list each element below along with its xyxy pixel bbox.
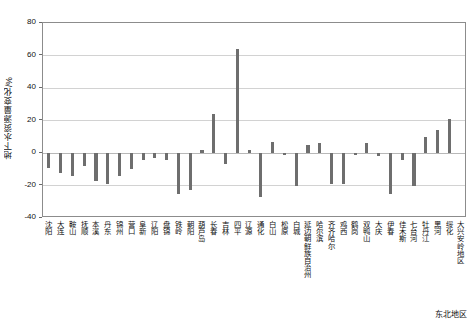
x-axis-title: 东北地区 [435,308,467,319]
x-tick-label: 铁岭 [174,220,182,234]
x-tick-label: 大兴安岭地区 [456,220,464,263]
x-tick-label: 佳木斯 [397,220,405,242]
x-tick-label: 阜新 [138,220,146,234]
x-tick-label: 长春 [209,220,217,234]
gridline-60 [43,55,465,56]
bar [153,153,156,158]
bar [118,153,121,176]
x-tick-label: 七台河 [409,220,417,242]
x-tick-label: 辽源 [244,220,252,234]
x-tick-label: 黑河 [433,220,441,234]
x-tick-label: 辽阳 [150,220,158,234]
bar [330,153,333,184]
x-tick-label: 本溪 [91,220,99,234]
plot-area [42,22,466,217]
x-tick-label: 锦州 [115,220,123,234]
bar [389,153,392,194]
bar [424,137,427,153]
x-tick-label: 延边朝鲜族自治州 [303,220,311,278]
bar [200,150,203,153]
x-tick-label: 通化 [256,220,264,234]
bar [212,114,215,153]
y-tick-label--20: -20 [6,181,36,189]
x-axis-tick-labels: 沈阳大连鞍山抚顺本溪丹东锦州营口阜新辽阳盘锦铁岭朝阳葫芦岛长春吉林四平辽源通化白… [42,220,466,306]
bar [306,145,309,153]
bar [271,142,274,153]
bar [283,153,286,155]
bar [47,153,50,168]
bar [377,153,380,156]
y-tick-label-80: 80 [6,18,36,26]
y-tick-label-40: 40 [6,83,36,91]
x-tick-label: 伊春 [386,220,394,234]
x-tick-label: 大连 [56,220,64,234]
bar [295,153,298,186]
x-tick-label: 鹤岗 [350,220,358,234]
x-tick-label: 沈阳 [44,220,52,234]
x-tick-label: 大庆 [374,220,382,234]
bar [401,153,404,160]
x-tick-label: 绥化 [445,220,453,234]
bar [354,153,357,155]
x-tick-label: 营口 [127,220,135,234]
bar [224,153,227,164]
bar [94,153,97,181]
gridline-40 [43,88,465,89]
x-tick-label: 吉林 [221,220,229,234]
x-tick-label: 鸡西 [339,220,347,234]
bar [412,153,415,186]
bar [365,143,368,153]
gridline-20 [43,120,465,121]
x-tick-label: 松原 [280,220,288,234]
x-tick-label: 双鸭山 [362,220,370,242]
x-tick-label: 盘锦 [162,220,170,234]
bar [248,150,251,153]
bar [189,153,192,190]
bar [106,153,109,184]
x-tick-label: 白山 [268,220,276,234]
y-tick-label-60: 60 [6,51,36,59]
bar [236,49,239,153]
bar [448,119,451,153]
x-tick-label: 丹东 [103,220,111,234]
x-tick-label: 葫芦岛 [197,220,205,242]
x-tick-label: 鞍山 [68,220,76,234]
bar [436,130,439,153]
y-tick-label--40: -40 [6,213,36,221]
x-tick-label: 齐齐哈尔 [327,220,335,249]
gridline--20 [43,185,465,186]
x-tick-label: 哈尔滨 [315,220,323,242]
y-tick-label-20: 20 [6,116,36,124]
bar [177,153,180,194]
x-tick-label: 牡丹江 [421,220,429,242]
x-tick-label: 四平 [233,220,241,234]
y-tick-label-0: 0 [6,148,36,156]
bar [165,153,168,160]
bar [71,153,74,176]
bar [259,153,262,197]
bar [59,153,62,173]
bar [342,153,345,184]
bar [318,143,321,153]
x-tick-label: 朝阳 [185,220,193,234]
bar [83,153,86,166]
bar [142,153,145,160]
x-tick-label: 白城 [291,220,299,234]
groundwater-change-bar-chart: 地下水资源量变化/% -40-20020406080 沈阳大连鞍山抚顺本溪丹东锦… [0,0,475,329]
x-tick-label: 抚顺 [79,220,87,234]
bar [130,153,133,169]
